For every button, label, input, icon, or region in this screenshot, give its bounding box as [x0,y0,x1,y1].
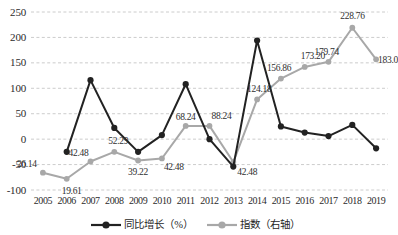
x-axis-tick-label: 2019 [364,196,388,206]
data-label: 39.22 [128,167,148,177]
data-label: 42.48 [164,162,184,172]
x-axis-tick-label: 2016 [293,196,317,206]
y-axis-tick-label: 50 [0,108,26,119]
y-axis-tick-label: 250 [0,7,26,18]
data-label: 183.0 [378,55,398,65]
legend-marker-growth-icon [91,219,121,231]
x-axis-tick-label: 2010 [150,196,174,206]
x-axis-tick-label: 2014 [245,196,269,206]
x-axis-tick-label: 2011 [174,196,198,206]
y-axis-tick-label: 200 [0,32,26,43]
y-axis-tick-label: -100 [0,185,26,196]
data-label: 88.24 [212,111,232,121]
data-label: 52.29 [108,136,128,146]
x-axis-tick-label: 2017 [317,196,341,206]
data-label: 228.76 [340,11,364,21]
x-axis-tick-label: 2007 [79,196,103,206]
data-label: 42.48 [69,148,89,158]
x-axis-tick-label: 2012 [198,196,222,206]
data-label: 19.61 [62,186,82,196]
x-axis-tick-label: 2018 [340,196,364,206]
y-axis-tick-label: 100 [0,83,26,94]
legend-label-index: 指数（右轴） [240,219,300,230]
x-axis-tick-label: 2008 [102,196,126,206]
x-axis-tick-label: 2015 [269,196,293,206]
data-label: 179.74 [315,47,339,57]
x-axis-tick-label: 2005 [31,196,55,206]
x-axis-tick-label: 2009 [126,196,150,206]
legend-label-growth: 同比增长（%） [124,219,193,230]
data-label: 124.18 [247,84,271,94]
data-label: 68.24 [176,112,196,122]
data-label: 26.14 [17,159,37,169]
data-label: 156.86 [267,63,291,73]
chart-legend: 同比增长（%） 指数（右轴） [0,214,391,235]
x-axis-tick-label: 2006 [55,196,79,206]
legend-item-growth[interactable]: 同比增长（%） [91,219,193,231]
legend-item-index[interactable]: 指数（右轴） [207,219,300,231]
x-axis-tick-label: 2013 [221,196,245,206]
y-axis-tick-label: 150 [0,57,26,68]
y-axis-tick-label: 0 [0,134,26,145]
data-label: 42.48 [237,167,257,177]
legend-marker-index-icon [207,219,237,231]
